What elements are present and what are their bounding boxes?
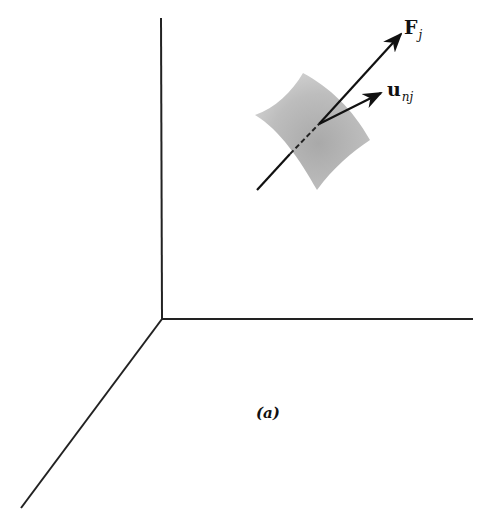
- unit-normal-label: unj: [387, 78, 413, 100]
- force-vector-line-lower: [257, 154, 290, 190]
- x-axis: [21, 319, 162, 508]
- unit-normal-subscript: nj: [402, 90, 413, 104]
- force-subscript: j: [419, 28, 423, 42]
- z-axis: [161, 18, 162, 319]
- figure-caption: (a): [256, 404, 280, 422]
- force-symbol: F: [404, 16, 418, 38]
- unit-normal-symbol: u: [387, 78, 401, 100]
- force-label: Fj: [404, 16, 422, 38]
